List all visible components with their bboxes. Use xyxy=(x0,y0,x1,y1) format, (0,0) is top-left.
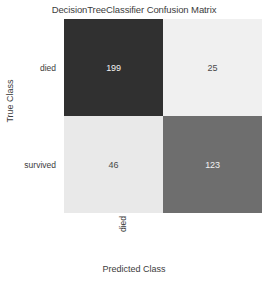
heatmap-cell-survived-survived: 123 xyxy=(163,116,262,213)
heatmap-cell-value: 123 xyxy=(205,160,220,170)
y-axis-title: True Class xyxy=(5,61,15,141)
y-axis-tick-survived: survived xyxy=(0,160,56,170)
y-axis-tick-died: died xyxy=(0,63,56,73)
heatmap-grid: 199 25 46 123 xyxy=(64,19,262,213)
x-axis-title: Predicted Class xyxy=(0,264,268,274)
confusion-matrix-figure: DecisionTreeClassifier Confusion Matrix … xyxy=(0,0,268,282)
heatmap-cell-died-died: 199 xyxy=(64,19,163,116)
heatmap-cell-died-survived: 25 xyxy=(163,19,262,116)
heatmap-cell-survived-died: 46 xyxy=(64,116,163,213)
heatmap-cell-value: 25 xyxy=(208,63,218,73)
heatmap-cell-value: 46 xyxy=(109,160,119,170)
page-title: DecisionTreeClassifier Confusion Matrix xyxy=(0,4,268,15)
heatmap-cell-value: 199 xyxy=(106,63,121,73)
